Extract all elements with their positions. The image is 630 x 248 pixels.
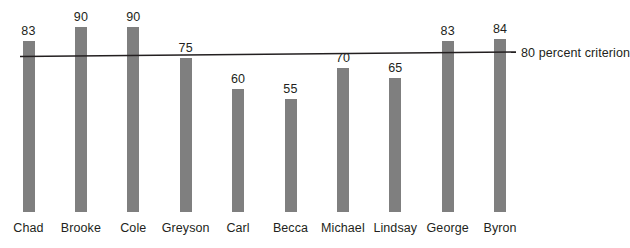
bar [337,68,349,212]
bar [23,41,35,212]
bar-value-label: 83 [423,24,473,38]
bar [232,89,244,212]
bar-value-label: 60 [213,72,263,86]
bar [442,41,454,212]
bar-value-label: 65 [370,61,420,75]
bar [285,99,297,212]
bar-value-label: 84 [475,22,525,36]
bar-value-label: 83 [4,24,54,38]
bar [389,78,401,212]
bar [494,39,506,212]
category-label: Byron [460,221,540,235]
bar-value-label: 55 [266,82,316,96]
bar-value-label: 90 [56,10,106,24]
bar [75,27,87,212]
criterion-line-label: 80 percent criterion [521,46,630,60]
bar-value-label: 90 [108,10,158,24]
bar-value-label: 70 [318,51,368,65]
bar [180,58,192,212]
bar-value-label: 75 [161,41,211,55]
bar [127,27,139,212]
